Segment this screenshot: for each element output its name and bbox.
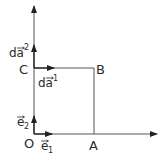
vector-label-da2: da 2	[9, 43, 29, 60]
svg-text:1: 1	[48, 146, 53, 155]
diagram-svg: O A B C e 1 e 2 da 1 da 2	[0, 0, 165, 165]
vector-label-e1: e 1	[41, 139, 53, 155]
vector-label-e2: e 2	[17, 115, 29, 131]
point-label-o: O	[24, 136, 34, 151]
point-label-c: C	[19, 62, 28, 77]
svg-text:2: 2	[24, 43, 29, 52]
point-label-a: A	[89, 138, 98, 153]
svg-text:1: 1	[53, 74, 58, 83]
point-label-b: B	[96, 62, 105, 77]
vector-label-da1: da 1	[38, 74, 58, 90]
svg-text:2: 2	[24, 122, 29, 131]
coordinate-diagram: O A B C e 1 e 2 da 1 da 2	[0, 0, 165, 165]
